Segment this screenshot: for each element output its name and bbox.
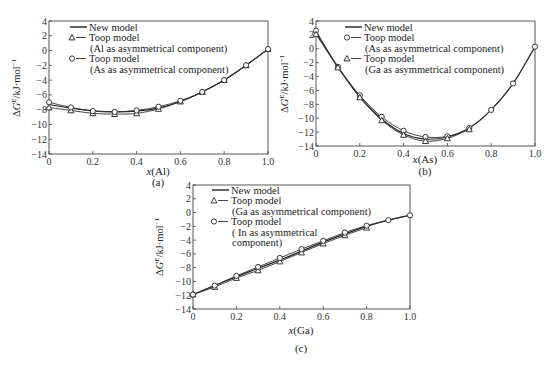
circle-marker-icon	[386, 218, 391, 223]
legend-text: Toop model	[89, 53, 139, 64]
legend-text: Toop model	[364, 53, 414, 64]
plot-frame	[49, 21, 268, 154]
circle-marker-icon	[190, 292, 195, 297]
x-tick-label: 0.6	[441, 148, 454, 159]
x-tick-label: 0	[314, 148, 319, 159]
y-axis-label: ΔGE/kJ·mol−1	[10, 58, 22, 117]
x-tick-label: 0.2	[230, 311, 243, 322]
panel-label: (c)	[295, 342, 308, 355]
x-tick-label: 0	[47, 156, 52, 167]
x-tick-label: 1.0	[404, 311, 417, 322]
x-tick-label: 0.8	[218, 156, 231, 167]
circle-marker-icon	[112, 109, 117, 114]
legend-text: New model	[364, 22, 413, 33]
legend-circle-icon	[211, 219, 216, 224]
y-tick-label: −6	[303, 85, 314, 96]
y-tick-label: −6	[180, 248, 191, 259]
y-tick-label: 2	[42, 30, 47, 41]
y-tick-label: 4	[186, 180, 191, 191]
x-tick-label: 0.4	[130, 156, 143, 167]
x-tick-label: 0.2	[87, 156, 100, 167]
legend-text: Toop model	[89, 32, 139, 43]
legend-text: New model	[89, 22, 138, 33]
legend-text: component)	[232, 237, 283, 249]
x-tick-label: 0.6	[317, 311, 330, 322]
circle-marker-icon	[407, 213, 412, 218]
legend-text: Toop model	[364, 32, 414, 43]
circle-marker-icon	[68, 105, 73, 110]
x-tick-label: 0.8	[485, 148, 498, 159]
panel-label: (a)	[152, 176, 165, 189]
panel-label: (b)	[419, 165, 432, 178]
circle-marker-icon	[510, 81, 515, 86]
circle-marker-icon	[222, 78, 227, 83]
x-tick-label: 1.0	[262, 156, 275, 167]
y-tick-label: −2	[180, 221, 191, 232]
circle-marker-icon	[364, 223, 369, 228]
circle-marker-icon	[299, 246, 304, 251]
legend: New modelToop model(Al as asymmetrical c…	[69, 22, 229, 76]
x-tick-label: 0.8	[360, 311, 373, 322]
y-tick-label: −2	[36, 60, 47, 71]
circle-marker-icon	[200, 89, 205, 94]
y-tick-label: −14	[175, 304, 191, 315]
y-tick-label: −10	[31, 119, 47, 130]
legend: New modelToop model(As as asymmetrical c…	[344, 22, 505, 76]
circle-marker-icon	[90, 109, 95, 114]
y-tick-label: 0	[42, 45, 47, 56]
circle-marker-icon	[212, 283, 217, 288]
legend-text: Toop model	[231, 216, 281, 227]
y-tick-label: 2	[186, 193, 191, 204]
legend-triangle-icon	[69, 35, 75, 40]
circle-marker-icon	[244, 63, 249, 68]
y-tick-label: −10	[298, 113, 314, 124]
y-tick-label: −4	[303, 71, 314, 82]
y-tick-label: −14	[298, 141, 314, 152]
legend-text: (Ga as asymmetrical component)	[365, 64, 505, 76]
y-axis-label: ΔGE/kJ·mol−1	[153, 217, 165, 276]
circle-marker-icon	[489, 107, 494, 112]
x-tick-label: 0	[191, 311, 196, 322]
y-tick-label: −2	[303, 57, 314, 68]
legend-text: (As as asymmetrical component)	[90, 64, 229, 76]
y-tick-label: −12	[298, 127, 314, 138]
x-tick-label: 1.0	[529, 148, 542, 159]
y-tick-label: −12	[31, 134, 47, 145]
circle-marker-icon	[234, 273, 239, 278]
circle-marker-icon	[342, 230, 347, 235]
y-tick-label: −8	[180, 262, 191, 273]
figure-canvas: 420−2−4−6−8−10−12−1400.20.40.60.81.0ΔGE/…	[0, 0, 552, 368]
circle-marker-icon	[256, 264, 261, 269]
circle-marker-icon	[46, 100, 51, 105]
y-tick-label: −12	[175, 290, 191, 301]
circle-marker-icon	[265, 46, 270, 51]
circle-marker-icon	[178, 98, 183, 103]
circle-marker-icon	[277, 255, 282, 260]
x-axis-label: x(Ga)	[287, 324, 313, 337]
y-tick-label: −14	[31, 149, 47, 160]
legend-text: New model	[231, 185, 280, 196]
y-tick-label: −10	[175, 276, 191, 287]
y-tick-label: −8	[36, 104, 47, 115]
circle-marker-icon	[156, 104, 161, 109]
y-tick-label: 4	[309, 16, 314, 27]
y-axis-label: ΔGE/kJ·mol−1	[278, 54, 290, 113]
x-tick-label: 0.6	[174, 156, 187, 167]
x-tick-label: 0.4	[397, 148, 410, 159]
y-tick-label: 0	[186, 207, 191, 218]
y-tick-label: 4	[42, 16, 47, 27]
circle-marker-icon	[134, 108, 139, 113]
legend: New modelToop model(Ga as asymmetrical c…	[211, 185, 372, 250]
circle-marker-icon	[321, 238, 326, 243]
chart-panel-b: 420−2−4−6−8−10−12−1400.20.40.60.81.0ΔGE/…	[278, 16, 541, 179]
circle-marker-icon	[532, 44, 537, 49]
y-tick-label: 0	[309, 43, 314, 54]
y-tick-label: −8	[303, 99, 314, 110]
legend-circle-icon	[69, 56, 74, 61]
y-tick-label: −4	[36, 75, 47, 86]
y-tick-label: −4	[180, 235, 191, 246]
y-tick-label: −6	[36, 89, 47, 100]
legend-triangle-icon	[211, 198, 217, 203]
legend-text: Toop model	[231, 195, 281, 206]
x-tick-label: 0.4	[274, 311, 287, 322]
